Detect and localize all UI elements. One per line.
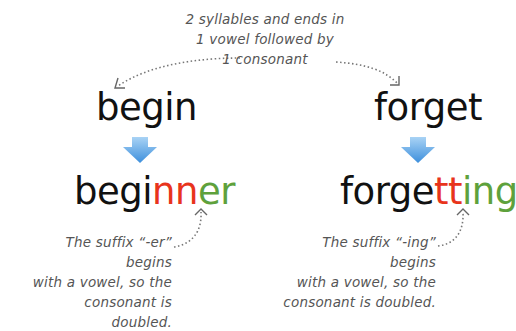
rule-note-line: 1 consonant <box>165 49 365 69</box>
arrowhead-forget <box>390 76 399 85</box>
dotted-arrow-to-ing <box>438 212 463 246</box>
note-line: The suffix “-er” begins <box>20 232 172 272</box>
explanation-note-er: The suffix “-er” begins with a vowel, so… <box>20 232 172 331</box>
dotted-arrow-to-er <box>174 212 201 247</box>
rule-note-line: 2 syllables and ends in <box>165 9 365 29</box>
base-word-begin: begin <box>96 86 197 129</box>
word-stem: begi <box>74 170 152 213</box>
note-line: consonant is doubled. <box>274 292 436 312</box>
note-line: with a vowel, so the <box>274 272 436 292</box>
note-line: consonant is doubled. <box>20 292 172 331</box>
explanation-note-ing: The suffix “-ing” begins with a vowel, s… <box>274 232 436 312</box>
word-stem: forge <box>340 170 434 213</box>
down-arrow-icon <box>123 137 157 163</box>
base-word-forget: forget <box>374 86 482 129</box>
suffix: ing <box>462 170 516 213</box>
note-line: with a vowel, so the <box>20 272 172 292</box>
rule-note-line: 1 vowel followed by <box>165 29 365 49</box>
note-line: The suffix “-ing” begins <box>274 232 436 272</box>
doubled-consonant: tt <box>434 170 462 213</box>
doubled-consonant: nn <box>152 170 198 213</box>
rule-note: 2 syllables and ends in 1 vowel followed… <box>165 9 365 69</box>
down-arrow-icon <box>401 137 435 163</box>
suffix: er <box>198 170 235 213</box>
result-word-beginner: beginner <box>74 170 235 213</box>
result-word-forgetting: forgetting <box>340 170 516 213</box>
